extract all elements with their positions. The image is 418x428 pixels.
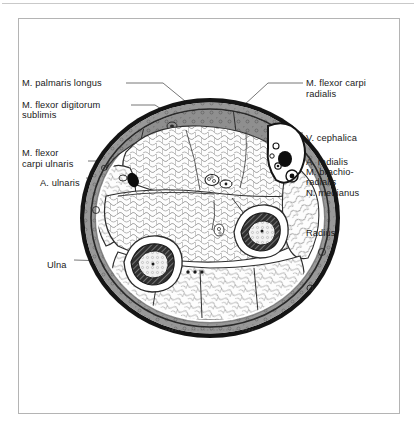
forearm-cross-section-illustration: [0, 0, 418, 428]
label-radius: Radius: [306, 228, 336, 238]
label-m-brachioradialis-2: radialis: [306, 177, 336, 187]
label-m-brachioradialis-1: M. brachio-: [306, 167, 354, 177]
label-m-flexor-carpi-radialis-1: M. flexor carpi: [306, 78, 366, 88]
vein-cephalica: [268, 123, 305, 182]
label-v-cephalica: V. cephalica: [306, 133, 357, 143]
interosseous-vessels: [214, 224, 224, 236]
label-a-radialis: A. radialis: [306, 157, 348, 167]
label-n-medianus: N. medianus: [306, 188, 359, 198]
label-m-palmaris-longus: M. palmaris longus: [22, 78, 102, 88]
bone-ulna: [124, 236, 182, 292]
label-m-flexor-carpi-radialis-2: radialis: [306, 89, 336, 99]
label-a-ulnaris: A. ulnaris: [40, 178, 80, 188]
label-m-flexor-carpi-ulnaris-1: M. flexor: [22, 148, 59, 158]
label-ulna: Ulna: [47, 260, 67, 270]
label-sublimis: sublimis: [22, 110, 56, 120]
label-m-flexor-digitorum: M. flexor digitorum: [22, 100, 100, 110]
label-m-flexor-carpi-ulnaris-2: carpi ulnaris: [22, 159, 73, 169]
